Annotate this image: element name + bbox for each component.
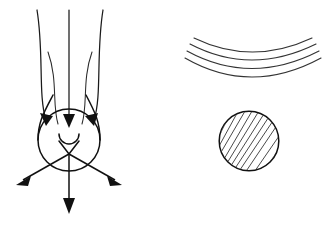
outflow-arrow-left-shaft	[23, 154, 69, 180]
hatched-disk-group	[206, 106, 297, 212]
wave-front-4	[185, 58, 321, 77]
streamline-outer-right	[94, 10, 103, 120]
streamline-outer-left	[37, 10, 46, 120]
inflow-arrowhead-center	[63, 114, 75, 128]
outflow-arrowhead-left	[16, 176, 31, 186]
inflow-arrowheads-group	[40, 113, 98, 128]
outflow-arrowhead-down	[63, 198, 75, 214]
left-panel-group	[16, 10, 122, 214]
diagram-svg	[0, 0, 334, 228]
outflow-arrow-right-shaft	[69, 154, 115, 180]
cusp-notch	[59, 134, 79, 144]
wave-front-1	[194, 38, 312, 52]
right-panel-group	[185, 38, 321, 212]
wave-fronts-group	[185, 38, 321, 77]
outflow-arrowhead-right	[107, 176, 122, 186]
figure-canvas	[0, 0, 334, 228]
outflow-arrows-group	[16, 154, 122, 214]
